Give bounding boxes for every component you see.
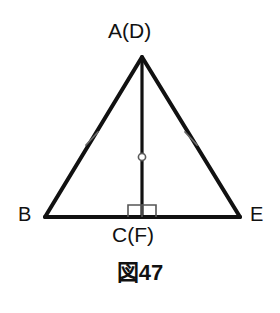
vertex-label-base-left: B [18,204,31,224]
triangle-side-ae [142,57,240,217]
vertex-label-altitude-foot: C(F) [112,224,154,245]
circle-marker-icon [138,153,145,160]
vertex-label-apex: A(D) [108,20,151,41]
geometry-figure: A(D) B E C(F) 図47 [0,0,280,313]
vertex-label-base-right: E [250,204,263,224]
figure-caption: 図47 [0,262,280,284]
